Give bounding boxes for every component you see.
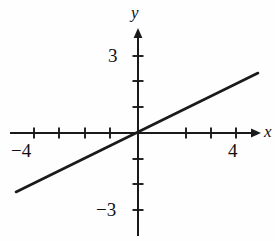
y-axis-arrowhead [134, 28, 143, 38]
x-tick-label-neg4: −4 [11, 141, 31, 160]
x-axis-arrowhead [251, 129, 261, 138]
coordinate-plane-svg [0, 0, 275, 241]
x-axis-label: x [264, 123, 272, 140]
y-tick-label-neg3: −3 [96, 200, 116, 219]
y-tick-label-pos3: 3 [108, 46, 118, 65]
x-tick-label-pos4: 4 [228, 141, 238, 160]
graph-figure: −4 4 3 −3 y x [0, 0, 275, 241]
y-axis-label: y [131, 4, 139, 21]
